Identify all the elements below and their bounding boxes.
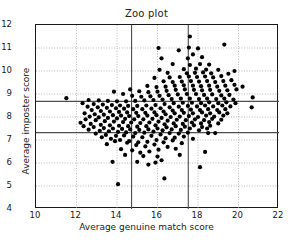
data-point xyxy=(162,176,166,180)
data-point xyxy=(196,115,200,119)
data-point xyxy=(178,75,182,79)
data-point xyxy=(108,123,112,127)
data-point xyxy=(223,84,227,88)
data-point xyxy=(156,46,160,50)
data-point xyxy=(219,93,223,97)
plot-area xyxy=(35,24,278,208)
data-point xyxy=(137,89,141,93)
data-point xyxy=(180,108,184,112)
data-point xyxy=(109,137,113,141)
data-point xyxy=(110,103,114,107)
data-point xyxy=(135,104,139,108)
data-point xyxy=(147,120,151,124)
data-point xyxy=(197,79,201,83)
data-point xyxy=(162,122,166,126)
data-point xyxy=(206,107,210,111)
data-point xyxy=(86,105,90,109)
data-point xyxy=(195,75,199,79)
y-tick-label: 6 xyxy=(0,157,12,167)
data-point xyxy=(164,136,168,140)
data-point xyxy=(138,151,142,155)
data-point xyxy=(135,125,139,129)
data-point xyxy=(92,102,96,106)
data-point xyxy=(190,120,194,124)
data-point xyxy=(165,89,169,93)
data-point xyxy=(156,120,160,124)
data-point xyxy=(141,154,145,158)
data-point xyxy=(215,108,219,112)
data-point xyxy=(114,106,118,110)
data-point xyxy=(231,97,235,101)
data-point xyxy=(181,122,185,126)
data-point xyxy=(166,119,170,123)
data-point xyxy=(160,97,164,101)
data-point xyxy=(159,116,163,120)
y-tick-label: 5 xyxy=(0,180,12,190)
data-point xyxy=(188,97,192,101)
data-point xyxy=(97,115,101,119)
data-point xyxy=(166,71,170,75)
data-point xyxy=(208,124,212,128)
data-point xyxy=(173,136,177,140)
data-point xyxy=(170,127,174,131)
x-tick-label: 12 xyxy=(64,210,88,220)
data-point xyxy=(191,137,195,141)
data-point xyxy=(211,75,215,79)
data-point xyxy=(117,110,121,114)
data-point xyxy=(216,68,220,72)
data-point xyxy=(209,71,213,75)
data-point xyxy=(197,97,201,101)
data-point xyxy=(90,108,94,112)
data-point xyxy=(234,87,238,91)
data-point xyxy=(142,131,146,135)
data-point xyxy=(151,98,155,102)
data-point xyxy=(186,104,190,108)
data-point xyxy=(106,99,110,103)
y-tick-label: 12 xyxy=(0,19,12,29)
data-point xyxy=(168,105,172,109)
data-point xyxy=(169,115,173,119)
data-point xyxy=(222,42,226,46)
data-point xyxy=(207,62,211,66)
data-point xyxy=(191,111,195,115)
data-point xyxy=(89,122,93,126)
data-point xyxy=(144,124,148,128)
data-point xyxy=(117,124,121,128)
data-point xyxy=(108,109,112,113)
data-point xyxy=(107,129,111,133)
data-point xyxy=(167,93,171,97)
data-point xyxy=(101,102,105,106)
data-point xyxy=(189,79,193,83)
y-tick-label: 8 xyxy=(0,111,12,121)
data-point xyxy=(92,125,96,129)
data-point xyxy=(155,154,159,158)
data-point xyxy=(118,138,122,142)
data-point xyxy=(213,131,217,135)
data-point xyxy=(192,88,196,92)
data-point xyxy=(184,118,188,122)
data-point xyxy=(123,153,127,157)
data-point xyxy=(198,62,202,66)
grid-lines xyxy=(36,25,279,209)
data-point xyxy=(112,90,116,94)
data-point xyxy=(188,126,192,130)
data-point xyxy=(207,84,211,88)
data-point xyxy=(179,97,183,101)
data-point xyxy=(191,84,195,88)
data-point xyxy=(111,113,115,117)
data-point xyxy=(180,141,184,145)
data-point xyxy=(134,111,138,115)
data-point xyxy=(207,100,211,104)
data-point xyxy=(120,127,124,131)
data-point xyxy=(199,101,203,105)
data-point xyxy=(229,78,233,82)
data-point xyxy=(118,103,122,107)
data-point xyxy=(203,74,207,78)
data-point xyxy=(182,67,186,71)
data-point xyxy=(208,111,212,115)
data-point xyxy=(105,142,109,146)
data-point xyxy=(183,87,187,91)
data-point xyxy=(198,108,202,112)
data-point xyxy=(186,56,190,60)
data-point xyxy=(126,124,130,128)
